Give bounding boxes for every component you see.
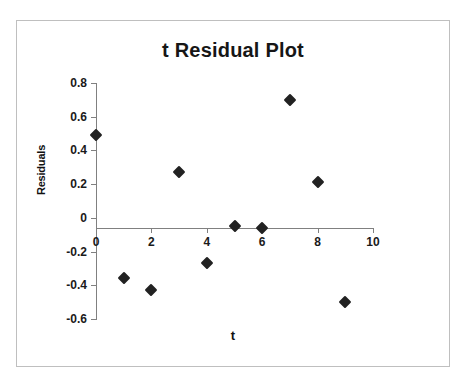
- data-point: [200, 257, 213, 270]
- x-tick: [151, 228, 152, 233]
- plot-area: 0.80.60.40.20-0.2-0.4-0.6 0246810 Residu…: [17, 21, 449, 366]
- data-point: [284, 93, 297, 106]
- x-tick: [96, 228, 97, 233]
- y-tick: [91, 218, 96, 219]
- y-tick: [91, 117, 96, 118]
- x-axis-title: t: [17, 328, 449, 343]
- top-cutoff-text: [14, 0, 334, 8]
- x-tick: [373, 228, 374, 233]
- x-tick: [318, 228, 319, 233]
- data-point: [311, 175, 324, 188]
- y-tick-label: 0.6: [51, 110, 87, 124]
- y-tick-label: 0.2: [51, 177, 87, 191]
- y-tick: [91, 285, 96, 286]
- y-tick: [91, 252, 96, 253]
- x-tick-label: 6: [247, 235, 277, 249]
- y-tick: [91, 83, 96, 84]
- y-tick-label: 0.8: [51, 76, 87, 90]
- y-axis-line: [96, 83, 97, 320]
- x-tick-label: 10: [358, 235, 388, 249]
- y-tick-label: -0.4: [51, 278, 87, 292]
- y-tick: [91, 319, 96, 320]
- y-tick-label: 0.4: [51, 143, 87, 157]
- x-tick-label: 0: [81, 235, 111, 249]
- x-tick: [207, 228, 208, 233]
- y-tick-label: -0.6: [51, 312, 87, 326]
- x-tick-label: 8: [303, 235, 333, 249]
- chart-frame: t Residual Plot 0.80.60.40.20-0.2-0.4-0.…: [16, 20, 450, 367]
- data-point: [228, 220, 241, 233]
- y-tick-label: 0: [51, 211, 87, 225]
- x-tick-label: 4: [192, 235, 222, 249]
- data-point: [117, 271, 130, 284]
- data-point: [90, 129, 103, 142]
- data-point: [256, 222, 269, 235]
- data-point: [145, 283, 158, 296]
- y-tick: [91, 184, 96, 185]
- data-point: [173, 166, 186, 179]
- x-tick-label: 2: [136, 235, 166, 249]
- data-point: [339, 296, 352, 309]
- y-tick: [91, 150, 96, 151]
- y-axis-title: Residuals: [35, 130, 47, 210]
